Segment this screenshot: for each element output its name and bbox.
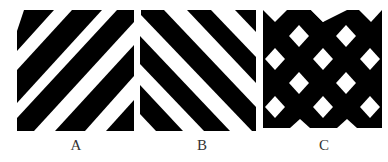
label-c: C — [314, 137, 334, 153]
stripes-forward-icon — [17, 10, 134, 131]
diamond-lattice-icon — [263, 10, 382, 128]
label-b: B — [192, 137, 212, 153]
panel-a-diagonal-stripes — [17, 10, 134, 131]
panel-c-diamond-lattice — [263, 10, 382, 128]
label-a: A — [66, 137, 86, 153]
pattern-figure: A B C — [0, 0, 388, 162]
stripes-backward-icon — [140, 10, 256, 131]
panel-b-diagonal-stripes — [140, 10, 256, 131]
